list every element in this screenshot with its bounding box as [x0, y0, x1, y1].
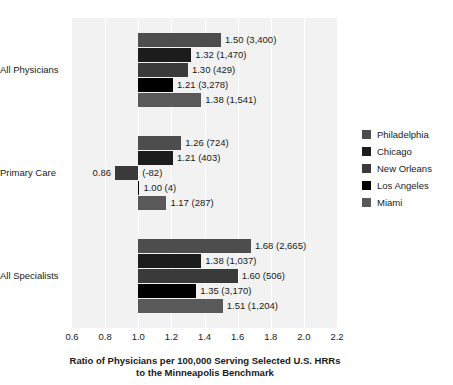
plot-area: 1.50 (3,400)1.32 (1,470)1.30 (429)1.21 (…	[72, 18, 337, 328]
x-axis-title-line2: to the Minneapolis Benchmark	[40, 367, 370, 379]
x-axis-title: Ratio of Physicians per 100,000 Serving …	[40, 355, 370, 379]
legend-item-los-angeles[interactable]: Los Angeles	[362, 178, 432, 192]
tick-label-0-8: 0.8	[90, 331, 120, 342]
bar-value-label: 1.32 (1,470)	[195, 48, 246, 62]
bar-chicago-all-physicians	[138, 48, 191, 62]
bar-value-label: 1.21 (403)	[177, 151, 220, 165]
bar-value-label: 1.60 (506)	[242, 269, 285, 283]
tick-label-1-6: 1.6	[223, 331, 253, 342]
tick-label-2-2: 2.2	[322, 331, 352, 342]
legend-label: Philadelphia	[377, 129, 429, 140]
tick-label-1-8: 1.8	[256, 331, 286, 342]
bar-philadelphia-all-specialists	[138, 239, 251, 253]
bar-value-label: 1.00 (4)	[143, 181, 176, 195]
bar-miami-all-specialists	[138, 299, 222, 313]
legend-swatch-icon	[362, 130, 371, 139]
bar-value-label: 1.26 (724)	[185, 136, 228, 150]
legend-swatch-icon	[362, 164, 371, 173]
bar-los-angeles-primary-care	[138, 181, 139, 195]
legend-item-miami[interactable]: Miami	[362, 195, 432, 209]
bar-new-orleans-all-specialists	[138, 269, 237, 283]
legend-label: Los Angeles	[377, 180, 429, 191]
legend-label: Chicago	[377, 146, 412, 157]
legend-swatch-icon	[362, 198, 371, 207]
legend-item-philadelphia[interactable]: Philadelphia	[362, 127, 432, 141]
legend-item-new-orleans[interactable]: New Orleans	[362, 161, 432, 175]
chart-legend: PhiladelphiaChicagoNew OrleansLos Angele…	[362, 127, 432, 212]
bar-chicago-primary-care	[138, 151, 173, 165]
x-axis-title-line1: Ratio of Physicians per 100,000 Serving …	[40, 355, 370, 367]
category-label-all-physicians: All Physicians	[0, 64, 68, 75]
bar-value-label: 1.50 (3,400)	[225, 33, 276, 47]
bar-value-label: 1.68 (2,665)	[255, 239, 306, 253]
tick-label-0-6: 0.6	[57, 331, 87, 342]
bar-chart: 1.50 (3,400)1.32 (1,470)1.30 (429)1.21 (…	[0, 0, 453, 385]
bar-miami-primary-care	[138, 196, 166, 210]
bar-philadelphia-all-physicians	[138, 33, 221, 47]
bar-value-label: 1.17 (287)	[170, 196, 213, 210]
bar-new-orleans-primary-care	[115, 166, 138, 180]
legend-swatch-icon	[362, 181, 371, 190]
legend-label: Miami	[377, 197, 402, 208]
tick-label-2-0: 2.0	[289, 331, 319, 342]
legend-item-chicago[interactable]: Chicago	[362, 144, 432, 158]
bar-miami-all-physicians	[138, 93, 201, 107]
bar-new-orleans-all-physicians	[138, 63, 188, 77]
gridline-1-6	[238, 18, 239, 328]
bar-chicago-all-specialists	[138, 254, 201, 268]
gridline-2-0	[304, 18, 305, 328]
bar-value-label: 1.38 (1,541)	[205, 93, 256, 107]
tick-label-1-4: 1.4	[190, 331, 220, 342]
bar-value-label: 1.51 (1,204)	[227, 299, 278, 313]
bar-value-label: 1.38 (1,037)	[205, 254, 256, 268]
bar-value-label: (-82)	[142, 166, 162, 180]
category-label-all-specialists: All Specialists	[0, 270, 68, 281]
bar-value-label: 1.35 (3,170)	[200, 284, 251, 298]
bar-philadelphia-primary-care	[138, 136, 181, 150]
bar-value-label: 1.30 (429)	[192, 63, 235, 77]
category-label-primary-care: Primary Care	[0, 167, 68, 178]
tick-label-1-0: 1.0	[123, 331, 153, 342]
legend-label: New Orleans	[377, 163, 432, 174]
tick-label-1-2: 1.2	[156, 331, 186, 342]
bar-value-label: 1.21 (3,278)	[177, 78, 228, 92]
bar-los-angeles-all-specialists	[138, 284, 196, 298]
bar-los-angeles-all-physicians	[138, 78, 173, 92]
bar-value-label-left: 0.86	[89, 166, 111, 180]
gridline-2-2	[337, 18, 338, 328]
legend-swatch-icon	[362, 147, 371, 156]
